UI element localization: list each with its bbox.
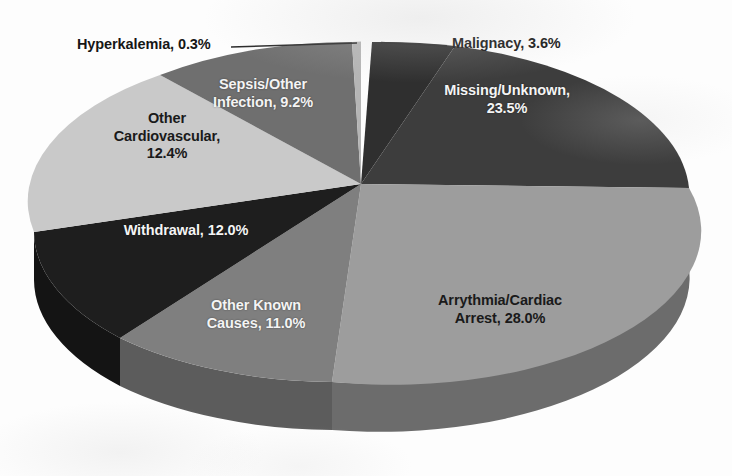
slice-label-malignacy: Malignacy, 3.6% — [452, 35, 561, 53]
slice-label-hyperkalemia: Hyperkalemia, 0.3% — [77, 36, 211, 54]
slice-label-sepsis-other-infection: Sepsis/Other Infection, 9.2% — [188, 76, 338, 111]
pie-chart-figure: Hyperkalemia, 0.3% Malignacy, 3.6% Sepsi… — [0, 0, 732, 476]
slice-label-arrythmia-cardiac-arrest: Arrythmia/Cardiac Arrest, 28.0% — [412, 292, 588, 327]
slice-label-missing-unknown: Missing/Unknown, 23.5% — [424, 82, 590, 117]
slice-label-withdrawal: Withdrawal, 12.0% — [96, 222, 276, 240]
slice-label-other-known-causes: Other Known Causes, 11.0% — [178, 297, 334, 332]
pie-top-face — [28, 42, 702, 385]
slice-label-other-cardiovascular: Other Cardiovascular, 12.4% — [92, 110, 242, 163]
